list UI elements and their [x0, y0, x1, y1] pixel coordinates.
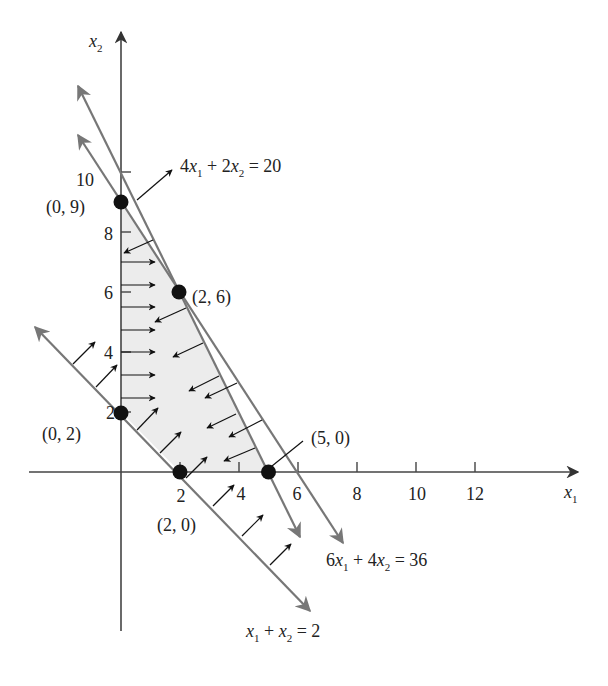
label-2-6: (2, 6) [192, 287, 231, 308]
label-0-9: (0, 9) [46, 197, 85, 218]
vertex-0-2 [114, 406, 129, 421]
label-2-0: (2, 0) [157, 515, 196, 536]
y-tick-2: 2 [106, 403, 115, 423]
leader-c1 [137, 170, 172, 200]
constraint-label-c3: x1 + x2 = 2 [245, 621, 320, 644]
x-tick-8: 8 [353, 484, 362, 504]
constraint-label-c1: 4x1 + 2x2 = 20 [180, 156, 281, 179]
feasible-region [121, 202, 269, 472]
x2-axis-label: x2 [88, 31, 103, 54]
y-tick-8: 8 [104, 224, 113, 244]
x-tick-labels: 2 4 6 8 10 12 [177, 484, 485, 506]
x-tick-10: 10 [408, 484, 426, 504]
x-tick-12: 12 [466, 484, 484, 504]
y-tick-10: 10 [76, 170, 94, 190]
y-tick-6: 6 [104, 283, 113, 303]
vertex-2-6 [172, 285, 187, 300]
label-5-0: (5, 0) [311, 428, 350, 449]
x-tick-4: 4 [237, 484, 246, 504]
x-tick-2: 2 [177, 486, 186, 506]
vertex-5-0 [261, 465, 276, 480]
vertex-0-9 [114, 195, 129, 210]
x1-axis-label: x1 [563, 482, 578, 505]
constraint-label-c2: 6x1 + 4x2 = 36 [326, 550, 427, 573]
lp-feasible-region-diagram: x2 x1 2 4 6 8 10 12 2 4 6 8 10 (0, 9) (2… [0, 0, 608, 686]
label-0-2: (0, 2) [42, 424, 81, 445]
vertex-2-0 [173, 465, 188, 480]
y-tick-4: 4 [104, 343, 113, 363]
x-tick-6: 6 [293, 484, 302, 504]
